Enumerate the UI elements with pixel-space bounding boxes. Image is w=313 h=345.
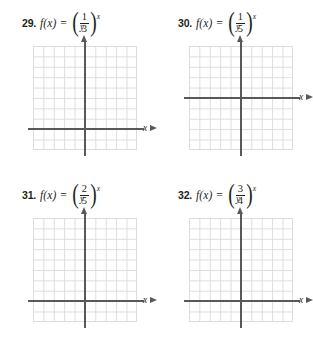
open-paren-icon: ( xyxy=(72,184,78,205)
y-axis-label: y xyxy=(80,22,84,32)
problem-31-graph: y x xyxy=(33,218,137,322)
problem-29-exponent: x xyxy=(97,12,100,21)
y-axis-arrow-icon xyxy=(237,207,243,214)
open-paren-icon: ( xyxy=(72,12,78,33)
problem-31-numerator: 2 xyxy=(80,183,88,195)
problem-30-equals: = xyxy=(216,17,223,29)
problem-30: 30. f(x) = ( 1 5 ) x y x xyxy=(156,0,312,172)
problem-32-numerator: 3 xyxy=(236,183,244,195)
y-axis-label: y xyxy=(236,194,240,204)
problem-30-paren-group: ( 1 5 ) xyxy=(227,11,254,35)
y-axis-line xyxy=(84,213,86,328)
problem-29-function-name: f(x) xyxy=(40,17,56,29)
problem-31-statement: 31. f(x) = ( 2 5 ) x xyxy=(22,180,100,210)
problem-31-number: 31. xyxy=(22,189,36,201)
close-paren-icon: ) xyxy=(90,12,96,33)
problem-29: 29. f(x) = ( 1 3 ) x y x xyxy=(0,0,156,172)
problem-29-paren-group: ( 1 3 ) xyxy=(71,11,98,35)
problem-32-number: 32. xyxy=(178,189,192,201)
x-axis-label: x xyxy=(143,295,147,305)
close-paren-icon: ) xyxy=(246,12,252,33)
close-paren-icon: ) xyxy=(246,184,252,205)
problem-31-expression: ( 2 5 ) x xyxy=(71,183,100,207)
problem-29-expression: ( 1 3 ) x xyxy=(71,11,100,35)
problem-32-graph: y x xyxy=(189,218,293,322)
y-axis-arrow-icon xyxy=(81,35,87,42)
coordinate-grid: x xyxy=(189,218,293,322)
problem-30-expression: ( 1 5 ) x xyxy=(227,11,256,35)
coordinate-grid: x xyxy=(33,218,137,322)
y-axis-arrow-icon xyxy=(237,35,243,42)
problem-29-number: 29. xyxy=(22,17,36,29)
problem-31-exponent: x xyxy=(97,184,100,193)
close-paren-icon: ) xyxy=(90,184,96,205)
problem-29-equals: = xyxy=(60,17,67,29)
open-paren-icon: ( xyxy=(228,184,234,205)
y-axis-label: y xyxy=(236,22,240,32)
coordinate-grid: x xyxy=(33,46,137,150)
problem-30-statement: 30. f(x) = ( 1 5 ) x xyxy=(178,8,256,38)
x-axis-line xyxy=(184,300,300,302)
problem-32: 32. f(x) = ( 3 4 ) x y x xyxy=(156,172,312,344)
problem-31: 31. f(x) = ( 2 5 ) x y x xyxy=(0,172,156,344)
problem-32-expression: ( 3 4 ) x xyxy=(227,183,256,207)
x-axis-arrow-icon xyxy=(306,94,313,100)
y-axis-arrow-icon xyxy=(81,207,87,214)
coordinate-grid: x xyxy=(189,46,293,150)
y-axis-label: y xyxy=(80,194,84,204)
x-axis-label: x xyxy=(299,92,303,102)
problem-29-numerator: 1 xyxy=(80,11,88,23)
x-axis-arrow-icon xyxy=(306,297,313,303)
problem-29-graph: y x xyxy=(33,46,137,150)
problem-31-paren-group: ( 2 5 ) xyxy=(71,183,98,207)
problem-32-equals: = xyxy=(216,189,223,201)
problem-32-statement: 32. f(x) = ( 3 4 ) x xyxy=(178,180,256,210)
problem-31-function-name: f(x) xyxy=(40,189,56,201)
problem-29-statement: 29. f(x) = ( 1 3 ) x xyxy=(22,8,100,38)
problem-32-function-name: f(x) xyxy=(196,189,212,201)
x-axis-label: x xyxy=(299,295,303,305)
problem-30-exponent: x xyxy=(253,12,256,21)
problem-32-paren-group: ( 3 4 ) xyxy=(227,183,254,207)
problem-30-numerator: 1 xyxy=(236,11,244,23)
problem-30-number: 30. xyxy=(178,17,192,29)
problem-31-equals: = xyxy=(60,189,67,201)
x-axis-label: x xyxy=(143,123,147,133)
problem-30-graph: y x xyxy=(189,46,293,150)
problem-30-function-name: f(x) xyxy=(196,17,212,29)
x-axis-line xyxy=(28,300,144,302)
problem-32-exponent: x xyxy=(253,184,256,193)
x-axis-line xyxy=(28,128,144,130)
x-axis-line xyxy=(184,97,300,99)
open-paren-icon: ( xyxy=(228,12,234,33)
y-axis-line xyxy=(240,213,242,328)
y-axis-line xyxy=(84,41,86,156)
